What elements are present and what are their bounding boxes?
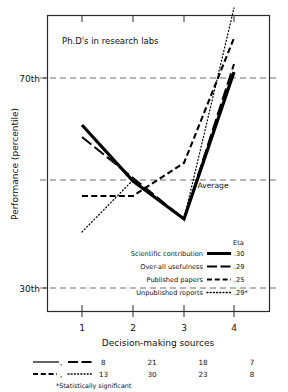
legend-label-unpublished-reports: Unpublished reports — [136, 289, 203, 297]
chart-figure: 70th 30th Performance (percentile) 1 2 3… — [0, 0, 288, 392]
xtick-label-3: 3 — [181, 323, 187, 333]
table-cell-r2c2: 30 — [147, 370, 157, 379]
footnote-statistically-significant: *Statistically significant — [56, 382, 132, 390]
legend-label-scientific-contribution: Scientific contribution — [131, 250, 203, 258]
table-cell-r1c1: 8 — [101, 358, 106, 367]
plot-title: Ph.D's in research labs — [62, 36, 159, 46]
table-cell-r1c2: 21 — [147, 358, 156, 367]
average-line-label: Average — [197, 181, 229, 190]
chart-svg: 70th 30th Performance (percentile) 1 2 3… — [0, 0, 288, 392]
sample-size-table: , 8 21 18 7 , 13 30 23 8 *Statistically … — [33, 358, 255, 390]
table-cell-r1c4: 7 — [250, 358, 255, 367]
table-cell-r2c4: 8 — [250, 370, 255, 379]
table-row-separator-2: , — [60, 370, 62, 379]
xtick-label-4: 4 — [231, 323, 237, 333]
table-row: , 13 30 23 8 — [33, 370, 255, 379]
legend-eta-unpublished-reports: .29* — [234, 289, 248, 297]
y-axis-title: Performance (percentile) — [10, 108, 20, 220]
x-axis-title: Decision-making sources — [102, 338, 215, 348]
legend-label-overall-usefulness: Over-all usefulness — [140, 263, 203, 271]
series-line-published-papers — [82, 38, 234, 196]
ytick-label-70th: 70th — [19, 74, 40, 84]
legend-label-published-papers: Published papers — [147, 276, 204, 284]
legend-eta-overall-usefulness: .29 — [234, 263, 245, 271]
table-cell-r2c1: 13 — [99, 370, 108, 379]
ytick-label-30th: 30th — [19, 284, 40, 294]
xtick-label-1: 1 — [79, 323, 85, 333]
table-row-separator-1: , — [60, 358, 62, 367]
legend-eta-published-papers: .25 — [234, 276, 245, 284]
xtick-label-2: 2 — [130, 323, 136, 333]
table-cell-r2c3: 23 — [198, 370, 207, 379]
legend-eta-scientific-contribution: .30 — [234, 250, 245, 258]
legend-header-eta: Eta — [233, 239, 244, 247]
table-row: , 8 21 18 7 — [33, 358, 254, 367]
table-cell-r1c3: 18 — [198, 358, 208, 367]
